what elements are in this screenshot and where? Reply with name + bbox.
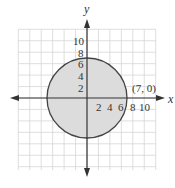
x-axis-label: x [167, 92, 174, 106]
y-axis-arrow-down-icon [84, 168, 90, 177]
y-tick-6: 6 [78, 58, 84, 70]
x-tick-2: 2 [96, 101, 102, 113]
y-tick-10: 10 [73, 35, 85, 47]
y-tick-2: 2 [78, 82, 84, 94]
point-label: (7, 0) [132, 82, 156, 95]
y-tick-4: 4 [78, 70, 84, 82]
x-axis-arrow-left-icon [10, 95, 19, 101]
x-tick-6: 6 [118, 101, 124, 113]
x-tick-8: 8 [130, 101, 136, 113]
y-axis-label: y [83, 2, 90, 16]
y-axis-arrow-up-icon [84, 19, 90, 28]
x-axis-arrow-right-icon [156, 95, 165, 101]
coordinate-plane: y x 10 8 6 4 2 2 4 6 8 10 (7, 0) [0, 0, 175, 188]
x-tick-4: 4 [107, 101, 113, 113]
x-tick-10: 10 [139, 101, 151, 113]
